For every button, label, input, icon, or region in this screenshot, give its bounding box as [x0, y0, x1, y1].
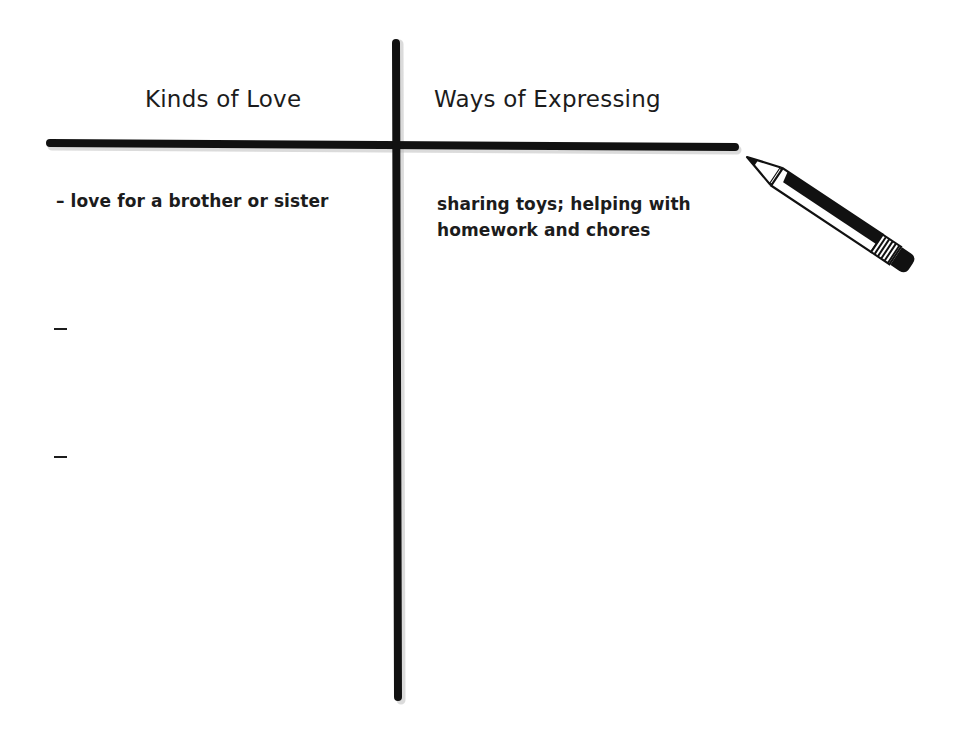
t-chart: Kinds of Love Ways of Expressing – love … — [0, 0, 970, 744]
pencil-icon — [0, 0, 970, 744]
